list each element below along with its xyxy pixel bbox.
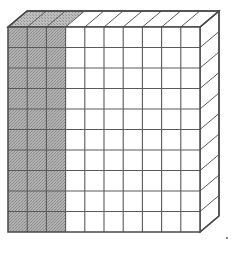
hundreds-flat-diagram xyxy=(0,0,244,256)
front-face xyxy=(8,27,200,232)
right-side-face xyxy=(200,11,219,232)
base-ten-block-figure xyxy=(0,0,244,256)
scan-speck-artifact xyxy=(226,237,228,239)
top-face-unshaded-run xyxy=(66,11,219,27)
top-face xyxy=(8,11,219,27)
